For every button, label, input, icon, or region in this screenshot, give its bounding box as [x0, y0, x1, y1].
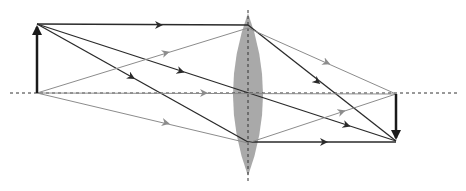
ray-base-lower-refracted	[248, 94, 396, 143]
ray-line	[37, 24, 248, 25]
ray-parallel-top	[37, 24, 248, 25]
ray-through-center	[37, 24, 396, 141]
light-rays	[37, 24, 396, 143]
ray-line	[37, 24, 396, 141]
ray-line	[37, 93, 248, 143]
ray-line	[248, 28, 396, 94]
ray-parallel-top-refracted	[248, 25, 396, 141]
ray-base-lower	[37, 93, 248, 143]
ray-line	[248, 94, 396, 143]
ray-base-upper-refracted	[248, 28, 396, 94]
ray-line	[248, 25, 396, 141]
ray-diagram-canvas	[0, 0, 466, 191]
ray-diagram	[0, 0, 466, 191]
